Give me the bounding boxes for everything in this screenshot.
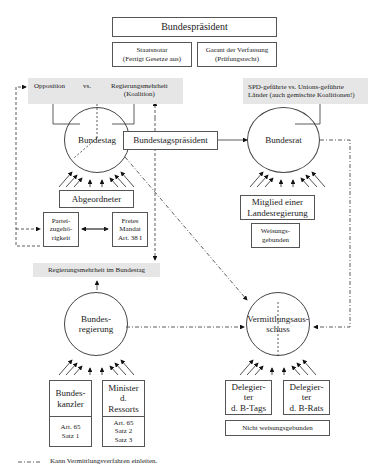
delegierter-bundesrat-label: Delegier- ter d. B-Rats (289, 382, 323, 413)
laender-header: SPD-geführte vs. Unions-geführte Länder … (243, 78, 368, 104)
opposition-coalition-header: Opposition vs. Regierungsmehrheit (Koali… (28, 78, 183, 104)
bundestag-label: Bundestag (78, 135, 116, 145)
freies-mandat-box: Freies Mandat Art. 38 I (112, 212, 148, 247)
abgeordneter-label: Abgeordneter (72, 194, 121, 204)
staatsnotar-box: Staatsnotar (Fertigt Gesetze aus) (112, 42, 192, 67)
delegierter-bundesrat-box: Delegier- ter d. B-Rats (283, 380, 330, 415)
staatsnotar-label: Staatsnotar (Fertigt Gesetze aus) (123, 46, 181, 62)
freies-mandat-label: Freies Mandat Art. 38 I (118, 217, 142, 241)
bundeskanzler-box: Bundes- kanzler Art. 65 Satz 1 (49, 380, 92, 447)
abgeordneter-box: Abgeordneter (59, 190, 134, 208)
bundestagspraesident-label: Bundestagspräsident (133, 135, 208, 145)
parteizugehoerigkeit-label: Partei- zugehö- rigkeit (50, 217, 73, 241)
opposition-label: Opposition (34, 82, 65, 90)
vermittlungsausschuss-circle: Vermittlungsaus- schuss (246, 292, 310, 356)
bundesrat-circle: Bundesrat (247, 107, 320, 173)
laender-label: SPD-geführte vs. Unions-geführte Länder … (248, 83, 355, 99)
minister-article: Art. 65 Satz 2 Satz 3 (114, 419, 134, 443)
bundesregierung-circle: Bundes- regierung (64, 292, 128, 356)
regierungsmehrheit-bundestag-box: Regierungsmehrheit im Bundestag (33, 263, 160, 277)
minister-box: Minister d. Ressorts Art. 65 Satz 2 Satz… (102, 380, 145, 447)
mitglied-landesregierung-label: Mitglied einer Landesregierung (247, 197, 307, 218)
bundestagspraesident-box: Bundestagspräsident (123, 131, 218, 150)
vermittlungsausschuss-label: Vermittlungsaus- schuss (247, 314, 309, 335)
bundesrat-label: Bundesrat (265, 135, 302, 145)
bundeskanzler-article: Art. 65 Satz 1 (61, 423, 81, 439)
weisungsgebunden-box: Weisungs- gebunden (251, 223, 300, 248)
regierungsmehrheit-label: Regierungsmehrheit (Koalition) (111, 82, 168, 98)
nicht-weisungsgebunden-box: Nicht weisungsgebunden (225, 420, 330, 436)
delegierter-bundestag-label: Delegier- ter d. B-Tags (231, 382, 266, 413)
delegierter-bundestag-box: Delegier- ter d. B-Tags (225, 380, 272, 415)
bundeskanzler-label: Bundes- kanzler (56, 388, 86, 409)
mitglied-landesregierung-box: Mitglied einer Landesregierung (240, 195, 315, 220)
garant-label: Garant der Verfassung (Prüfungsrecht) (206, 46, 268, 62)
garant-box: Garant der Verfassung (Prüfungsrecht) (197, 42, 277, 67)
regierungsmehrheit-bundestag-label: Regierungsmehrheit im Bundestag (48, 266, 145, 274)
bundesregierung-label: Bundes- regierung (79, 314, 113, 335)
nicht-weisungsgebunden-label: Nicht weisungsgebunden (242, 424, 313, 432)
weisungsgebunden-label: Weisungs- gebunden (261, 227, 290, 243)
vs-label: vs. (83, 82, 91, 90)
parteizugehoerigkeit-box: Partei- zugehö- rigkeit (43, 212, 79, 247)
legend-text: Kann Vermittlungsverfahren einleiten. (50, 457, 157, 465)
bundespraesident-box: Bundespräsident (112, 17, 277, 37)
bundespraesident-label: Bundespräsident (161, 21, 228, 33)
bundestag-circle: Bundestag (64, 107, 130, 173)
minister-label: Minister d. Ressorts (108, 383, 139, 414)
